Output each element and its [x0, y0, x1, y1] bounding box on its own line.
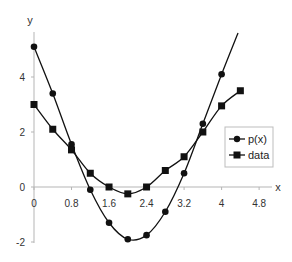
series-line — [34, 33, 238, 240]
square-marker-icon — [237, 87, 244, 94]
square-marker-icon — [87, 170, 94, 177]
circle-marker-icon — [125, 236, 132, 243]
square-marker-icon — [143, 184, 150, 191]
circle-marker-icon — [234, 136, 240, 142]
circle-marker-icon — [162, 208, 169, 215]
x-tick-label: 4 — [219, 198, 225, 209]
x-tick-label: 4.8 — [252, 198, 266, 209]
square-marker-icon — [68, 146, 75, 153]
circle-marker-icon — [49, 90, 56, 97]
y-tick-label: 0 — [19, 182, 25, 193]
square-marker-icon — [199, 129, 206, 136]
x-tick-label: 0 — [31, 198, 37, 209]
y-tick-label: 4 — [19, 72, 25, 83]
legend: p(x) data — [225, 127, 273, 167]
series-layer — [31, 33, 244, 243]
series-data — [31, 87, 244, 197]
y-tick-label: -2 — [16, 237, 25, 248]
circle-marker-icon — [181, 170, 188, 177]
square-marker-icon — [124, 190, 131, 197]
legend-label: p(x) — [248, 133, 267, 145]
square-marker-icon — [181, 153, 188, 160]
square-marker-icon — [49, 126, 56, 133]
circle-marker-icon — [31, 43, 38, 50]
y-ticks: -2024 — [16, 72, 34, 248]
square-marker-icon — [106, 184, 113, 191]
x-tick-label: 0.8 — [65, 198, 79, 209]
square-marker-icon — [234, 152, 241, 159]
x-tick-label: 1.6 — [102, 198, 116, 209]
chart: -2024 00.81.62.43.244.8 y x p(x) data — [0, 0, 292, 262]
x-tick-label: 2.4 — [140, 198, 154, 209]
circle-marker-icon — [200, 120, 207, 127]
circle-marker-icon — [218, 71, 225, 78]
square-marker-icon — [31, 101, 38, 108]
circle-marker-icon — [87, 186, 94, 193]
y-axis-title: y — [27, 14, 33, 26]
legend-label: data — [248, 149, 270, 161]
square-marker-icon — [162, 167, 169, 174]
circle-marker-icon — [143, 232, 150, 239]
x-axis-title: x — [275, 181, 281, 193]
circle-marker-icon — [106, 219, 113, 226]
y-tick-label: 2 — [19, 127, 25, 138]
series-px — [31, 33, 238, 243]
square-marker-icon — [218, 102, 225, 109]
x-tick-label: 3.2 — [177, 198, 191, 209]
